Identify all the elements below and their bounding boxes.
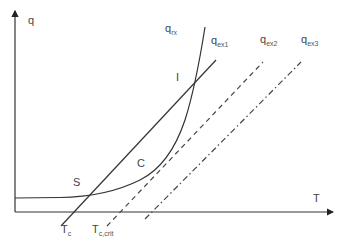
qex3-line — [145, 62, 301, 219]
qex1-line — [61, 60, 216, 226]
x-axis-label: T — [313, 192, 320, 204]
qex3-label: qex3 — [301, 33, 319, 47]
Tccrit-label: Tc,crit — [92, 223, 114, 237]
qex2-label: qex2 — [260, 33, 278, 47]
heat-balance-diagram: q T qrx qex1 qex2 qex3 S I C Tc Tc,crit — [0, 0, 346, 238]
qex1-label: qex1 — [211, 34, 229, 48]
point-C-label: C — [137, 157, 145, 169]
Tc-label: Tc — [61, 223, 72, 237]
qrx-curve — [15, 27, 205, 198]
y-axis-label: q — [28, 14, 34, 26]
point-I-label: I — [176, 71, 179, 83]
qex2-line — [107, 62, 263, 226]
point-S-label: S — [73, 176, 80, 188]
qrx-label: qrx — [165, 22, 177, 36]
